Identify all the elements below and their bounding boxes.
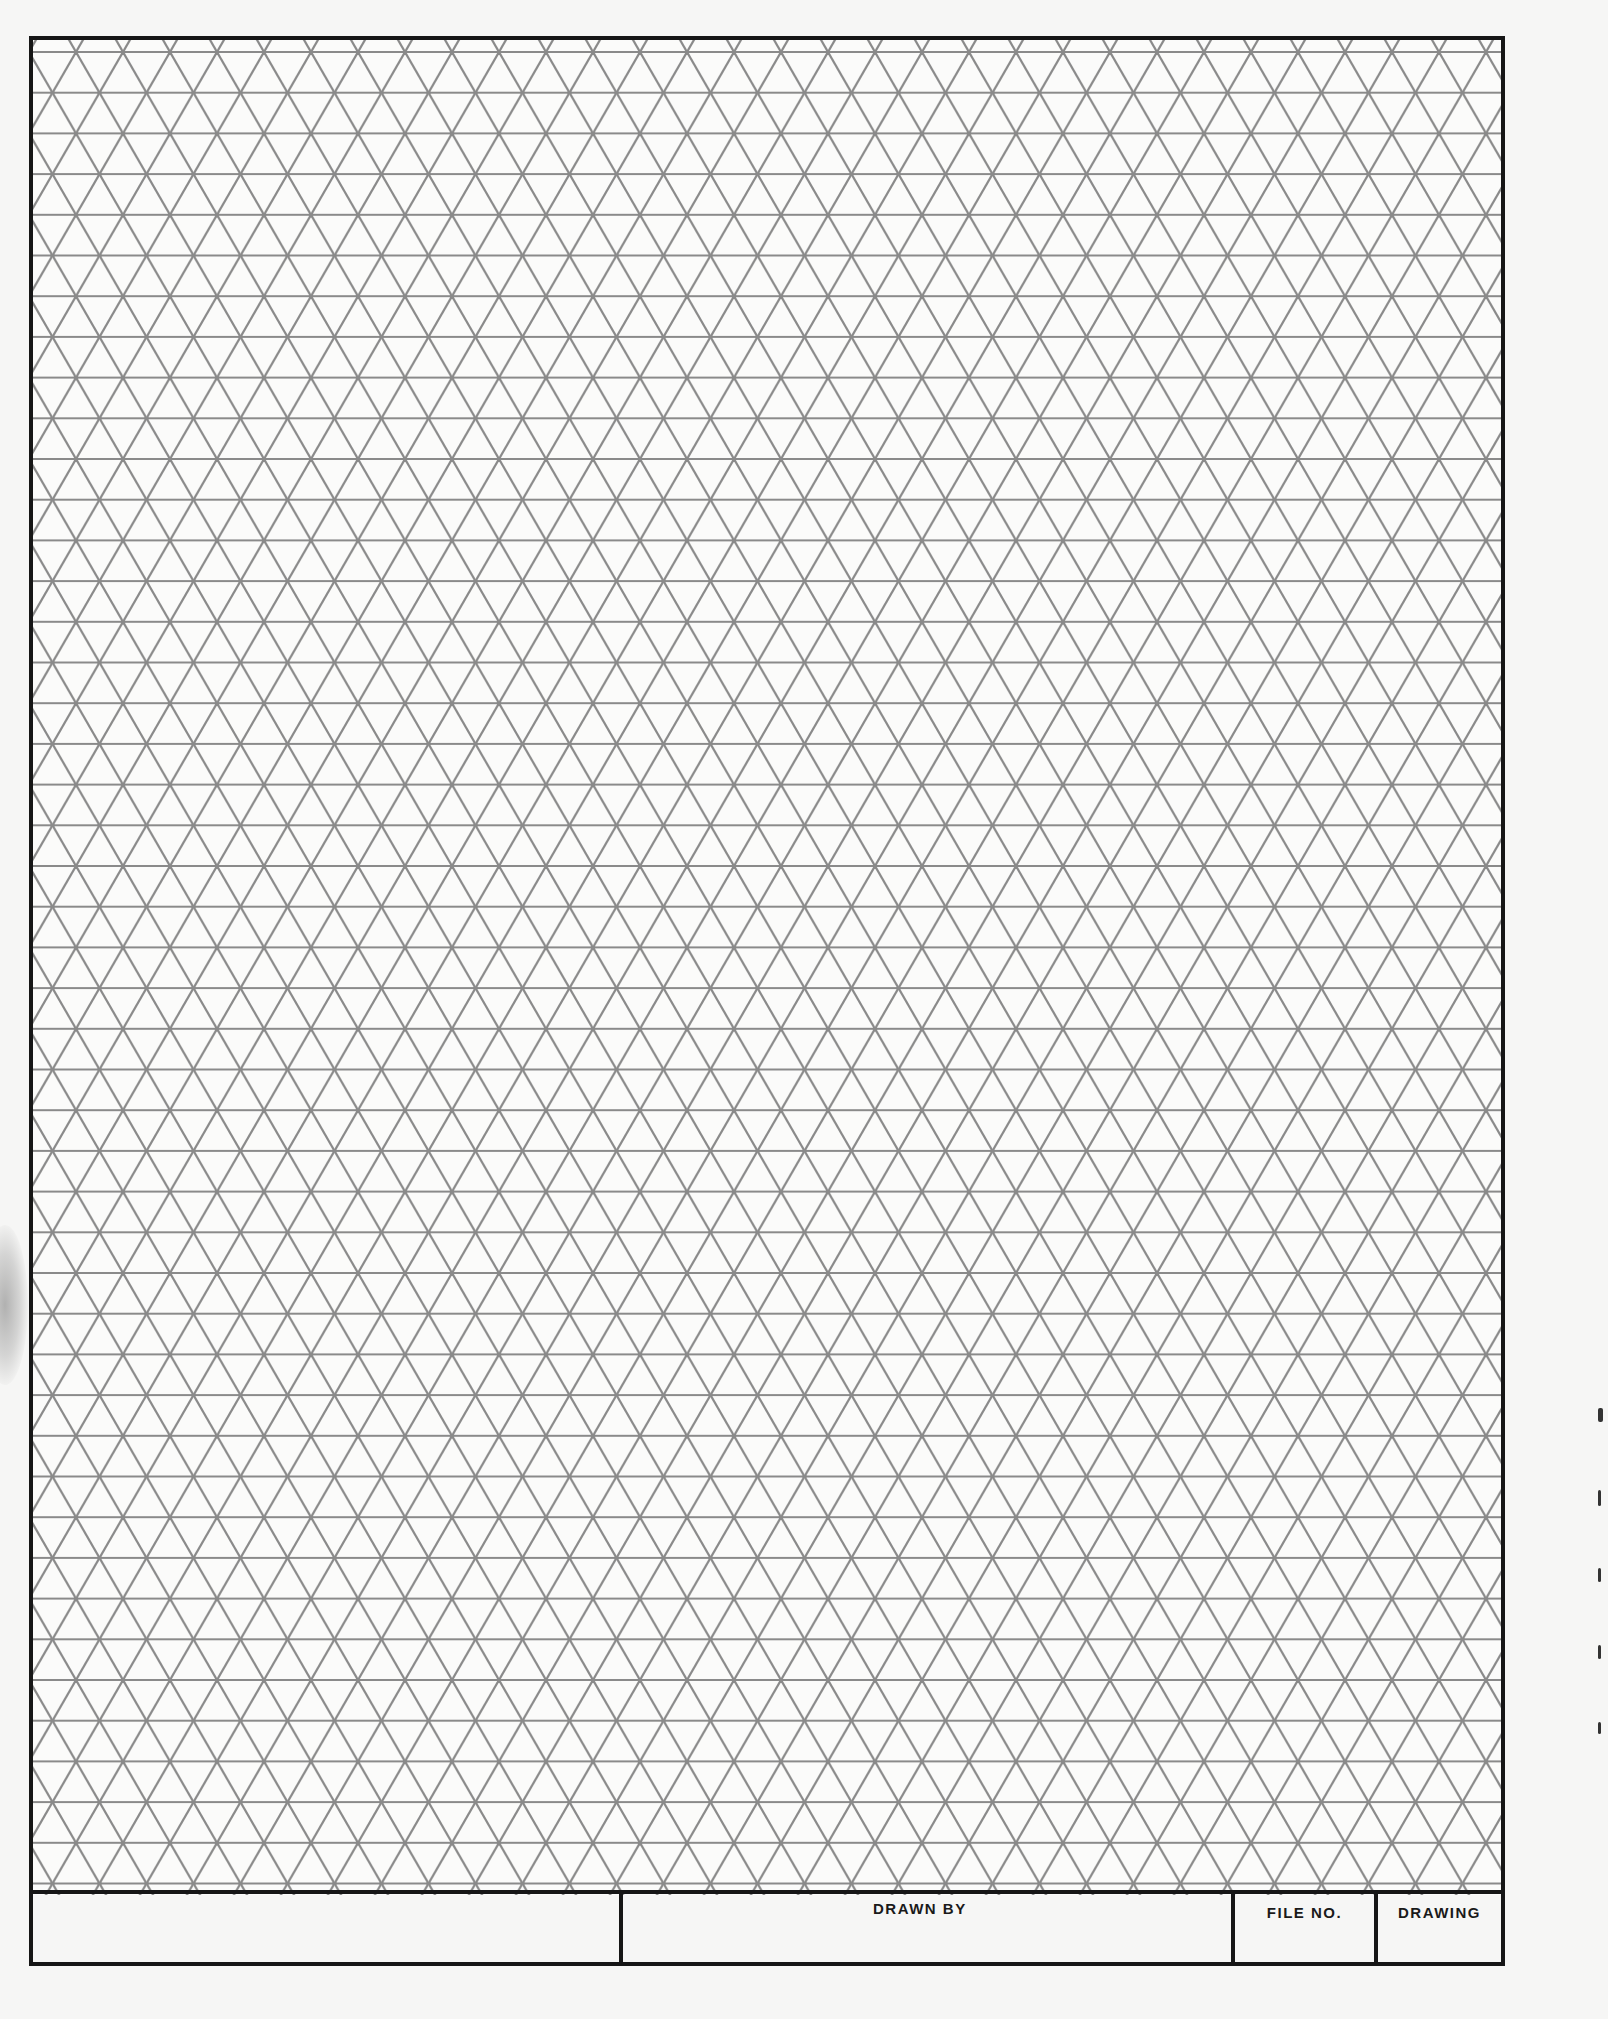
file-no-field[interactable]: FILE NO.	[1235, 1894, 1378, 1962]
binding-hole-mark	[1598, 1408, 1603, 1422]
title-block: DRAWN BY FILE NO. DRAWING	[33, 1890, 1501, 1962]
isometric-grid	[33, 40, 1501, 1895]
drawn-by-label: DRAWN BY	[873, 1900, 967, 1917]
drawn-by-field[interactable]: DRAWN BY	[623, 1894, 1235, 1962]
binding-hole-mark	[1598, 1722, 1601, 1734]
drawing-field[interactable]: DRAWING	[1378, 1894, 1501, 1962]
binding-hole-mark	[1598, 1645, 1601, 1659]
binding-hole-mark	[1598, 1490, 1601, 1506]
drawing-label: DRAWING	[1378, 1904, 1501, 1921]
drawing-sheet-border: DRAWN BY FILE NO. DRAWING	[29, 36, 1505, 1966]
binding-hole-mark	[1598, 1568, 1601, 1582]
title-block-blank-field[interactable]	[33, 1894, 623, 1962]
file-no-label: FILE NO.	[1235, 1904, 1374, 1921]
paper-smudge	[0, 1225, 28, 1385]
